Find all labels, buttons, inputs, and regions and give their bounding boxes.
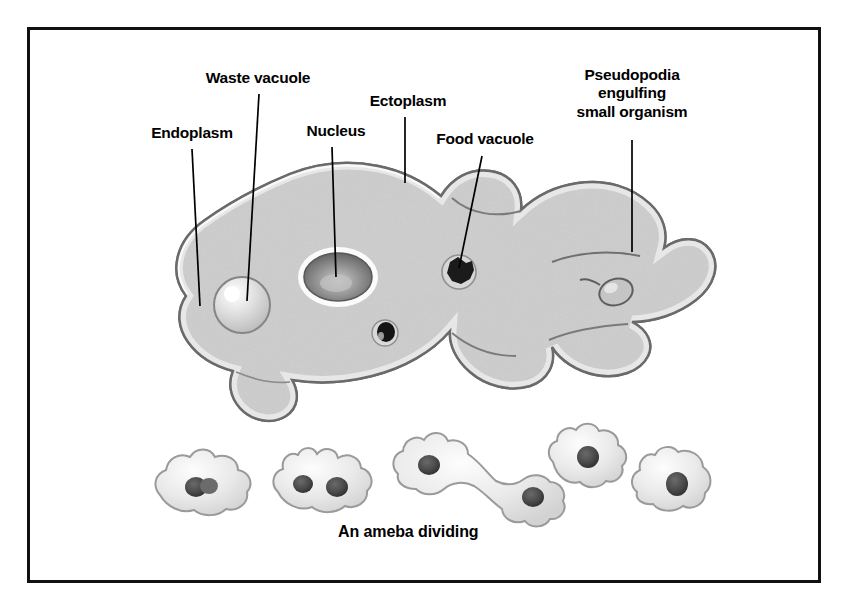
- label-ectoplasm: Ectoplasm: [358, 92, 458, 110]
- label-waste-vacuole: Waste vacuole: [192, 69, 324, 87]
- ameba-figure: Endoplasm Waste vacuole Nucleus Ectoplas…: [0, 0, 842, 600]
- label-nucleus: Nucleus: [296, 122, 376, 140]
- label-food-vacuole: Food vacuole: [422, 130, 548, 148]
- label-pseudopodia: Pseudopodia engulfing small organism: [556, 66, 708, 121]
- figure-caption: An ameba dividing: [338, 523, 479, 541]
- label-endoplasm: Endoplasm: [138, 124, 246, 142]
